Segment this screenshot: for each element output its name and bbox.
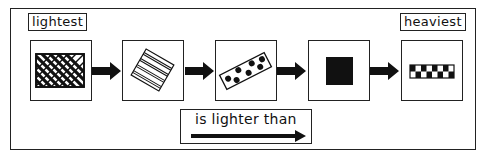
legend-arrow-icon [191,130,307,142]
item-3-box [215,40,277,101]
arrow-1-to-2-icon [92,62,122,80]
item-1-box [30,40,92,101]
arrow-2-to-3-icon [185,62,215,80]
solid-square-icon [309,41,368,99]
striped-square-icon [123,41,182,99]
legend-box: is lighter than [180,109,312,144]
heaviest-label: heaviest [400,13,466,31]
item-2-box [122,40,184,101]
arrow-3-to-4-icon [277,62,307,80]
dotted-bar-icon [216,41,275,99]
item-5-box [401,40,463,101]
legend-text: is lighter than [195,111,297,127]
item-4-box [308,40,370,101]
crosshatch-rectangle-icon [31,41,90,99]
checkerboard-bar-icon [402,41,461,99]
lightest-label: lightest [28,13,87,31]
arrow-4-to-5-icon [370,62,400,80]
